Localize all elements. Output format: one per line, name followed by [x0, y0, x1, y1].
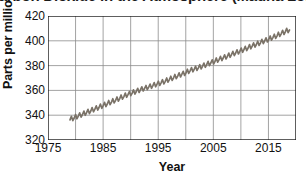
x-tick-1975: 1975: [25, 142, 71, 154]
x-tick-1985: 1985: [80, 142, 126, 154]
x-axis-label: Year: [48, 160, 296, 174]
x-tick-1995: 1995: [135, 142, 181, 154]
x-tick-2015: 2015: [245, 142, 291, 154]
co2-chart-figure: Carbon Dioxide in the Atmosphere (Mauna …: [0, 0, 306, 176]
plot-svg: [48, 16, 296, 140]
plot-area: [48, 16, 296, 140]
x-tick-2005: 2005: [190, 142, 236, 154]
